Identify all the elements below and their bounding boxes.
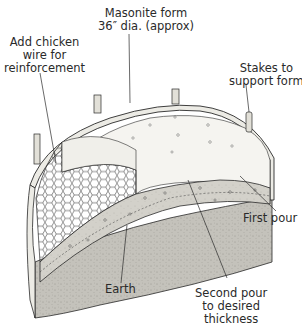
label-earth: Earth [105,283,136,296]
label-chicken-wire: Add chicken wire for reinforcement [4,36,85,75]
label-second-pour: Second pour to desired thickness [195,287,267,326]
label-stakes: Stakes to support form [229,62,302,88]
label-line: 36″ dia. (approx) [98,20,194,33]
label-line: Earth [105,283,136,296]
label-line: support form [229,75,302,88]
concrete-form-diagram: Masonite form 36″ dia. (approx) Add chic… [0,0,302,331]
label-line: thickness [195,313,267,326]
label-line: reinforcement [4,62,85,75]
label-first-pour: First pour [243,212,297,225]
label-masonite-form: Masonite form 36″ dia. (approx) [98,7,194,33]
label-line: First pour [243,212,297,225]
